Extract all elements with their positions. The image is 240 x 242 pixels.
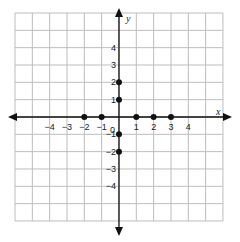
- data-point: [116, 97, 122, 103]
- x-tick-label: 4: [186, 122, 191, 132]
- data-point: [133, 114, 139, 120]
- data-point: [116, 149, 122, 155]
- data-point: [151, 114, 157, 120]
- origin-label: 0: [110, 125, 115, 135]
- data-point: [168, 114, 174, 120]
- axes: [8, 8, 232, 236]
- y-axis-label: y: [125, 13, 131, 24]
- coordinate-plane: −4−3−2−112344321−1−2−3−4 x y 0: [0, 0, 240, 242]
- x-tick-label: 3: [168, 122, 173, 132]
- y-tick-label: −4: [106, 181, 116, 191]
- x-tick-label: 2: [151, 122, 156, 132]
- x-tick-label: −2: [79, 122, 89, 132]
- y-tick-label: −3: [106, 164, 116, 174]
- y-tick-label: 1: [111, 95, 116, 105]
- y-tick-label: 3: [111, 60, 116, 70]
- data-point: [99, 114, 105, 120]
- y-tick-label: −2: [106, 147, 116, 157]
- data-point: [81, 114, 87, 120]
- x-axis-left-arrow-icon: [8, 113, 17, 121]
- x-tick-label: 1: [134, 122, 139, 132]
- data-point: [116, 79, 122, 85]
- y-tick-label: 4: [111, 43, 116, 53]
- x-tick-label: −3: [62, 122, 72, 132]
- y-axis-down-arrow-icon: [115, 227, 123, 236]
- x-axis-label: x: [215, 106, 221, 117]
- x-tick-label: −4: [45, 122, 55, 132]
- x-axis-right-arrow-icon: [223, 113, 232, 121]
- data-point: [116, 131, 122, 137]
- y-tick-label: 2: [111, 77, 116, 87]
